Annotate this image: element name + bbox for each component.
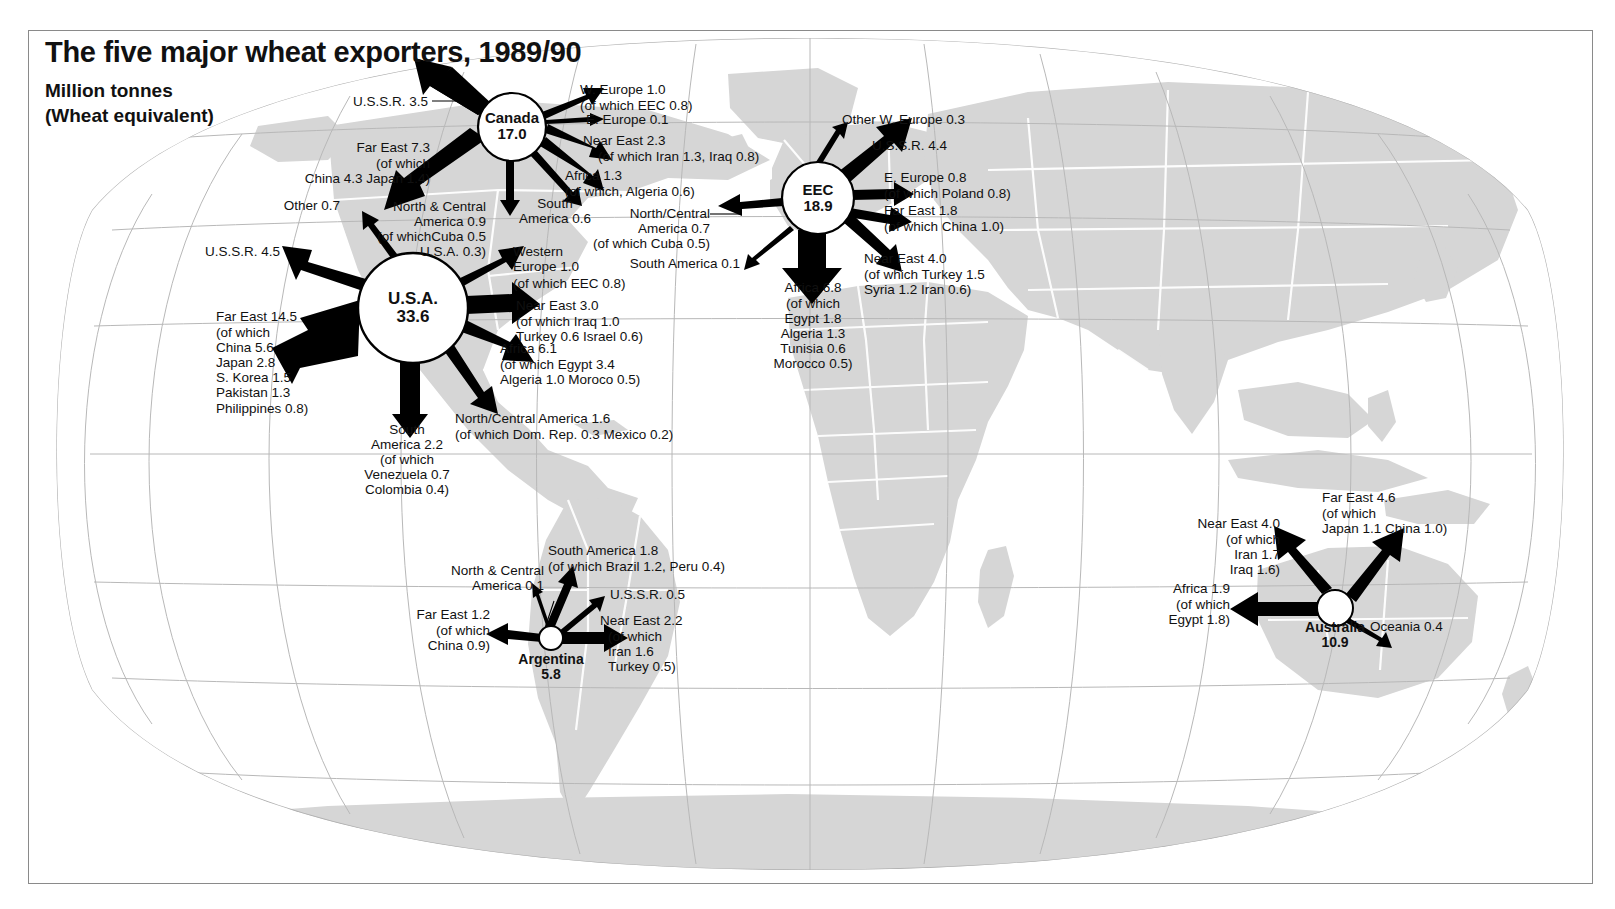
eec-flow-east-europe-heading: E. Europe 0.8 xyxy=(884,170,1084,185)
usa-flow-west-europe-detail: (of which EEC 0.8) xyxy=(513,276,713,291)
argentina-flow-near-east-detail: (of which Iran 1.6 Turkey 0.5) xyxy=(608,629,758,674)
usa-flow-near-east-detail: (of which Iraq 1.0 Turkey 0.6 Israel 0.6… xyxy=(516,314,736,344)
canada-flow-near-east-heading: Near East 2.3 xyxy=(583,133,783,148)
canada-flow-west-europe-heading: W. Europe 1.0 xyxy=(580,82,780,97)
canada-flow-africa-heading: Africa 1.3 xyxy=(565,168,765,183)
australia-flow-fareast-detail: (of which Japan 1.1 China 1.0) xyxy=(1322,506,1542,536)
australia-flow-oceania: Oceania 0.4 xyxy=(1370,619,1510,634)
usa-flow-ussr: U.S.S.R. 4.5 xyxy=(162,244,280,259)
usa-flow-africa-detail: (of which Egypt 3.4 Algeria 1.0 Moroco 0… xyxy=(500,357,730,387)
eec-flow-africa-detail: (of which Egypt 1.8 Algeria 1.3 Tunisia … xyxy=(748,296,878,372)
canada-flow-fareast-heading: Far East 7.3 xyxy=(250,140,430,155)
australia-flow-africa-detail: (of which Egypt 1.8) xyxy=(1130,597,1230,627)
argentina-flow-south-america-detail: (of which Brazil 1.2, Peru 0.4) xyxy=(548,559,788,574)
canada-flow-africa-detail: (of which, Algeria 0.6) xyxy=(565,184,785,199)
eec-flow-south-america: South America 0.1 xyxy=(580,256,740,271)
usa-flow-south-america-heading: South America 2.2 xyxy=(348,422,466,452)
eec-flow-ussr: U.S.S.R. 4.4 xyxy=(872,138,1052,153)
canada-flow-west-europe-detail: (of which EEC 0.8) xyxy=(580,98,780,113)
hub-label-canada: Canada 17.0 xyxy=(463,110,561,142)
hub-label-argentina: Argentina 5.8 xyxy=(503,652,599,682)
flow-arrows-layer xyxy=(0,0,1615,909)
australia-flow-near-east-detail: (of which Iran 1.7 Iraq 1.6) xyxy=(1150,532,1280,577)
canada-flow-fareast-detail: (of which China 4.3 Japan 1.4) xyxy=(230,156,430,186)
argentina-flow-south-america-heading: South America 1.8 xyxy=(548,543,768,558)
australia-flow-fareast-heading: Far East 4.6 xyxy=(1322,490,1522,505)
eec-flow-other-west-europe: Other W. Europe 0.3 xyxy=(842,112,1062,127)
eec-flow-africa-heading: Africa 6.8 xyxy=(748,280,878,295)
page-subtitle: Million tonnes (Wheat equivalent) xyxy=(45,78,214,128)
usa-flow-near-east-heading: Near East 3.0 xyxy=(516,298,716,313)
page-title: The five major wheat exporters, 1989/90 xyxy=(45,36,581,69)
argentina-flow-north-central-america: North & Central America 0.1 xyxy=(404,563,544,593)
canada-flow-east-europe: E. Europe 0.1 xyxy=(586,112,766,127)
usa-flow-south-america-detail: (of which Venezuela 0.7 Colombia 0.4) xyxy=(348,452,466,497)
eec-flow-near-east-detail: (of which Turkey 1.5 Syria 1.2 Iran 0.6) xyxy=(864,267,1094,297)
usa-flow-fareast-detail: (of which China 5.6 Japan 2.8 S. Korea 1… xyxy=(216,325,396,416)
eec-flow-fareast-heading: Far East 1.8 xyxy=(884,203,1084,218)
eec-flow-north-central-america-detail: (of which Cuba 0.5) xyxy=(560,236,710,251)
argentina-flow-fareast-heading: Far East 1.2 xyxy=(370,607,490,622)
canada-flow-near-east-detail: (of which Iran 1.3, Iraq 0.8) xyxy=(598,149,838,164)
hub-circle-argentina xyxy=(539,626,563,650)
argentina-flow-ussr: U.S.S.R. 0.5 xyxy=(610,587,760,602)
canada-flow-ussr: U.S.S.R. 3.5 xyxy=(288,94,428,109)
eec-flow-fareast-detail: (of which China 1.0) xyxy=(884,219,1104,234)
usa-flow-fareast-heading: Far East 14.5 xyxy=(216,309,396,324)
eec-flow-north-central-america-heading: North/Central America 0.7 xyxy=(560,206,710,236)
argentina-flow-fareast-detail: (of which China 0.9) xyxy=(370,623,490,653)
canada-flow-north-central-america-detail: (of whichCuba 0.5 U.S.A. 0.3) xyxy=(300,229,486,259)
australia-flow-africa-heading: Africa 1.9 xyxy=(1130,581,1230,596)
eec-flow-east-europe-detail: (of which Poland 0.8) xyxy=(884,186,1104,201)
usa-flow-other: Other 0.7 xyxy=(222,198,340,213)
eec-flow-near-east-heading: Near East 4.0 xyxy=(864,251,1064,266)
argentina-flow-near-east-heading: Near East 2.2 xyxy=(600,613,750,628)
usa-flow-north-central-america-detail: (of which Dom. Rep. 0.3 Mexico 0.2) xyxy=(455,427,735,442)
australia-flow-near-east-heading: Near East 4.0 xyxy=(1150,516,1280,531)
usa-flow-north-central-america-heading: North/Central America 1.6 xyxy=(455,411,715,426)
